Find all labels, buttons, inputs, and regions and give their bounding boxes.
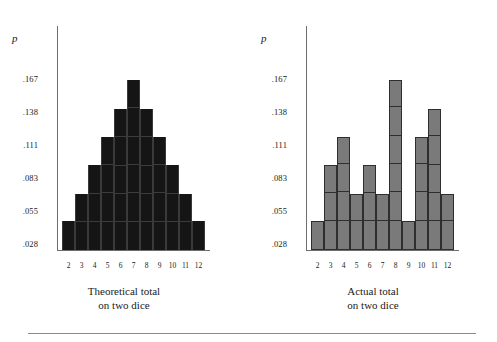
bar-3 xyxy=(75,194,88,250)
x-tick-3: 3 xyxy=(75,262,88,270)
bar-segment-divider xyxy=(141,165,152,166)
theoretical-bars xyxy=(62,66,205,250)
bar-3 xyxy=(324,165,337,250)
bar-segment-divider xyxy=(128,192,139,193)
bar-segment-divider xyxy=(442,220,453,221)
y-tick-label-111: .111 xyxy=(253,141,287,150)
y-tick-label-083: .083 xyxy=(4,174,38,183)
bar-segment-divider xyxy=(429,192,440,193)
y-tick-label-167: .167 xyxy=(253,75,287,84)
theoretical-caption: Theoretical total on two dice xyxy=(0,284,248,312)
bar-segment-divider xyxy=(76,221,87,222)
bar-6 xyxy=(114,109,127,250)
bar-11 xyxy=(428,109,441,250)
x-tick-12: 12 xyxy=(441,262,454,270)
bar-12 xyxy=(441,194,454,250)
bar-segment-divider xyxy=(429,135,440,136)
bar-segment-divider xyxy=(141,193,152,194)
x-tick-3: 3 xyxy=(324,262,337,270)
bar-segment-divider xyxy=(115,193,126,194)
bar-segment-divider xyxy=(364,220,375,221)
bar-segment-divider xyxy=(102,192,113,193)
x-tick-7: 7 xyxy=(376,262,389,270)
bar-segment-divider xyxy=(128,221,139,222)
bar-segment-divider xyxy=(364,192,375,193)
y-tick-label-055: .055 xyxy=(253,207,287,216)
bar-segment-divider xyxy=(128,136,139,137)
bar-segment-divider xyxy=(377,220,388,221)
x-tick-11: 11 xyxy=(428,262,441,270)
dice-distribution-figure: p .167 .138 .111 .083 .055 .028 2 3 4 5 … xyxy=(0,0,497,342)
bar-segment-divider xyxy=(141,136,152,137)
x-tick-11: 11 xyxy=(179,262,192,270)
x-tick-4: 4 xyxy=(337,262,350,270)
bar-segment-divider xyxy=(141,221,152,222)
x-axis-line xyxy=(306,250,459,251)
y-axis-label-p: p xyxy=(12,33,18,44)
x-tick-7: 7 xyxy=(127,262,140,270)
bar-segment-divider xyxy=(115,165,126,166)
y-axis-label-p: p xyxy=(261,33,267,44)
x-tick-4: 4 xyxy=(88,262,101,270)
bar-5 xyxy=(101,137,114,250)
bar-segment-divider xyxy=(416,220,427,221)
bar-segment-divider xyxy=(390,106,401,107)
x-tick-6: 6 xyxy=(114,262,127,270)
theoretical-chart-panel: p .167 .138 .111 .083 .055 .028 2 3 4 5 … xyxy=(0,0,248,342)
bar-4 xyxy=(337,137,350,250)
bar-segment-divider xyxy=(338,163,349,164)
bar-segment-divider xyxy=(180,221,191,222)
bar-segment-divider xyxy=(351,220,362,221)
bar-segment-divider xyxy=(102,221,113,222)
bar-segment-divider xyxy=(325,192,336,193)
bar-segment-divider xyxy=(89,221,100,222)
bar-2 xyxy=(311,221,324,250)
bar-segment-divider xyxy=(115,136,126,137)
x-tick-8: 8 xyxy=(389,262,402,270)
bar-segment-divider xyxy=(154,192,165,193)
bar-segment-divider xyxy=(102,164,113,165)
bar-9 xyxy=(402,221,415,250)
y-axis-line xyxy=(306,26,307,251)
bar-segment-divider xyxy=(390,163,401,164)
bar-8 xyxy=(140,109,153,250)
bar-segment-divider xyxy=(390,135,401,136)
actual-chart-panel: p .167 .138 .111 .083 .055 .028 2 3 4 5 … xyxy=(249,0,497,342)
x-tick-9: 9 xyxy=(402,262,415,270)
bar-segment-divider xyxy=(338,220,349,221)
y-tick-label-028: .028 xyxy=(4,240,38,249)
bar-segment-divider xyxy=(167,193,178,194)
bar-segment-divider xyxy=(390,191,401,192)
x-tick-2: 2 xyxy=(311,262,324,270)
bar-2 xyxy=(62,221,75,250)
y-tick-label-138: .138 xyxy=(4,108,38,117)
x-tick-10: 10 xyxy=(415,262,428,270)
x-tick-9: 9 xyxy=(153,262,166,270)
y-tick-label-111: .111 xyxy=(4,141,38,150)
bar-12 xyxy=(192,221,205,250)
y-tick-label-138: .138 xyxy=(253,108,287,117)
actual-caption-line2: on two dice xyxy=(249,298,497,312)
bar-segment-divider xyxy=(338,191,349,192)
x-tick-2: 2 xyxy=(62,262,75,270)
x-axis-line xyxy=(57,250,210,251)
bar-6 xyxy=(363,165,376,250)
y-axis-line xyxy=(57,26,58,251)
bar-segment-divider xyxy=(416,163,427,164)
bar-segment-divider xyxy=(154,164,165,165)
y-tick-label-055: .055 xyxy=(4,207,38,216)
x-tick-8: 8 xyxy=(140,262,153,270)
x-tick-5: 5 xyxy=(350,262,363,270)
bar-4 xyxy=(88,165,101,250)
bar-10 xyxy=(166,165,179,250)
y-tick-label-083: .083 xyxy=(253,174,287,183)
x-tick-labels: 2 3 4 5 6 7 8 9 10 11 12 xyxy=(311,262,454,270)
actual-bars xyxy=(311,66,454,250)
bar-segment-divider xyxy=(416,191,427,192)
actual-caption: Actual total on two dice xyxy=(249,284,497,312)
theoretical-caption-line2: on two dice xyxy=(0,298,248,312)
bar-7 xyxy=(376,194,389,250)
actual-caption-line1: Actual total xyxy=(249,284,497,298)
bar-11 xyxy=(179,194,192,250)
x-tick-labels: 2 3 4 5 6 7 8 9 10 11 12 xyxy=(62,262,205,270)
